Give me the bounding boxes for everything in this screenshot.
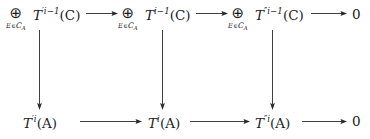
arrow-top-2	[196, 9, 228, 18]
functor-symbol: T	[255, 7, 264, 23]
argument: (A)	[37, 115, 57, 131]
argument: (C)	[170, 7, 191, 23]
arrow-vertical-1	[35, 30, 44, 110]
arrow-bottom-2	[190, 117, 250, 126]
arrow-top-3	[311, 9, 347, 18]
functor-symbol: T	[148, 115, 157, 131]
arrow-bottom-3	[302, 117, 347, 126]
argument: (C)	[283, 7, 304, 23]
arrow-vertical-2	[158, 30, 167, 110]
direct-sum-operator-top-3: ⊕ E∈CA	[228, 6, 248, 32]
zero-object-top: 0	[352, 8, 361, 22]
arrow-top-1	[86, 9, 118, 18]
argument: (C)	[60, 7, 81, 23]
functor-symbol: T	[255, 115, 264, 131]
term-top-2: Ti−1(C)	[145, 7, 191, 22]
arrow-vertical-3	[268, 30, 277, 110]
family-index: A	[244, 25, 248, 31]
exponent: i−1	[267, 6, 283, 16]
argument: (A)	[270, 115, 290, 131]
term-top-1: T′i−1(C)	[33, 7, 80, 22]
functor-symbol: T	[33, 7, 42, 23]
functor-symbol: T	[145, 7, 154, 23]
family-index: A	[22, 25, 26, 31]
direct-sum-subscript-top-1: E∈CA	[6, 22, 26, 32]
direct-sum-subscript-top-2: E∈CA	[118, 22, 138, 32]
argument: (A)	[160, 115, 180, 131]
direct-sum-operator-top-1: ⊕ E∈CA	[6, 6, 26, 32]
term-bottom-3: T″i(A)	[255, 115, 290, 130]
direct-sum-operator-top-2: ⊕ E∈CA	[118, 6, 138, 32]
exponent: i−1	[44, 6, 60, 16]
arrow-bottom-1	[80, 117, 142, 126]
exponent: i−1	[154, 6, 170, 16]
commutative-diagram: ⊕ E∈CA T′i−1(C) ⊕ E∈CA Ti−1(C) ⊕ E∈CA T″…	[0, 0, 370, 139]
term-top-3: T″i−1(C)	[255, 7, 304, 22]
term-bottom-2: Ti(A)	[148, 115, 180, 130]
direct-sum-icon: ⊕	[122, 6, 135, 21]
direct-sum-subscript-top-3: E∈CA	[228, 22, 248, 32]
term-bottom-1: T′i(A)	[23, 115, 57, 130]
functor-symbol: T	[23, 115, 32, 131]
zero-object-bottom: 0	[352, 115, 361, 129]
family-index: A	[134, 25, 138, 31]
direct-sum-icon: ⊕	[232, 6, 245, 21]
direct-sum-icon: ⊕	[10, 6, 23, 21]
